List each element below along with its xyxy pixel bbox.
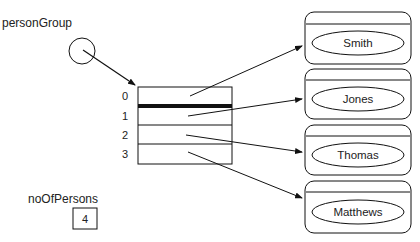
array-index-3: 3: [122, 148, 128, 160]
array-index-0: 0: [122, 90, 128, 102]
reference-circle: [69, 38, 95, 64]
counter-value: 4: [82, 213, 88, 225]
person-object-2: Thomas: [305, 125, 411, 175]
person-object-3: Matthews: [305, 181, 411, 233]
diagram-canvas: personGroup 0 1 2 3 Smith Jones Thomas: [0, 0, 420, 242]
person-name-3: Matthews: [333, 206, 382, 218]
person-name-1: Jones: [343, 93, 374, 105]
person-name-2: Thomas: [337, 149, 379, 161]
pointer-arrow-3: [188, 152, 302, 198]
array-index-2: 2: [122, 129, 128, 141]
person-object-0: Smith: [305, 12, 411, 64]
person-object-1: Jones: [305, 69, 411, 119]
person-group-label: personGroup: [2, 16, 72, 30]
pointer-arrow-0: [190, 46, 302, 96]
array-box: [138, 87, 232, 164]
reference-arrow: [83, 50, 135, 85]
counter-label: noOfPersons: [28, 192, 98, 206]
array-index-1: 1: [122, 110, 128, 122]
person-name-0: Smith: [343, 37, 372, 49]
